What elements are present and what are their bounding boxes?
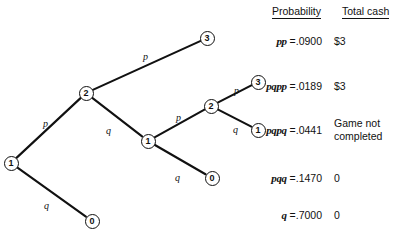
tree-node-1: 1	[4, 156, 19, 171]
total-cash-cell: 0	[334, 172, 340, 185]
tree-node-3: 3	[200, 31, 215, 46]
probability-symbol: pqpq	[266, 124, 286, 136]
tree-edge	[92, 98, 142, 137]
probability-value: =.0189	[287, 80, 322, 92]
tree-edge	[93, 41, 200, 90]
edge-label-p: p	[234, 85, 239, 96]
tree-edge	[16, 98, 80, 158]
probability-cell: pp =.0900	[248, 35, 322, 47]
total-cash-cell: $3	[334, 35, 346, 48]
probability-cell: pqq =.1470	[248, 172, 322, 184]
column-header-total-cash: Total cash	[342, 5, 389, 19]
probability-value: =.1470	[287, 172, 322, 184]
tree-node-2: 2	[79, 86, 94, 101]
edge-label-q: q	[44, 200, 49, 211]
tree-node-0: 0	[205, 171, 220, 186]
probability-symbol: pp	[276, 35, 286, 47]
total-cash-cell: 0	[334, 209, 340, 222]
edge-label-p: p	[143, 51, 148, 62]
tree-edge	[154, 145, 205, 174]
edge-label-p: p	[176, 112, 181, 123]
tree-node-0: 0	[85, 214, 100, 229]
total-cash-cell: Game not completed	[334, 117, 382, 142]
probability-symbol: pqq	[271, 172, 286, 184]
probability-cell: pqpp =.0189	[248, 80, 322, 92]
column-header-probability: Probability	[272, 5, 321, 19]
edge-label-q: q	[106, 125, 111, 136]
probability-cell: q =.7000	[248, 209, 322, 221]
outcome-table: Probability Total cash pp =.0900$3pqpp =…	[248, 0, 399, 238]
probability-value: =.7000	[287, 209, 322, 221]
total-cash-cell: $3	[334, 80, 346, 93]
edge-label-q: q	[233, 124, 238, 135]
tree-node-1: 1	[141, 134, 156, 149]
probability-cell: pqpq =.0441	[248, 124, 322, 136]
probability-symbol: pqpp	[266, 80, 286, 92]
edge-label-q: q	[175, 172, 180, 183]
edge-label-p: p	[43, 118, 48, 129]
tree-node-2: 2	[204, 99, 219, 114]
tree-edge	[17, 167, 86, 216]
probability-value: =.0900	[287, 35, 322, 47]
probability-value: =.0441	[287, 124, 322, 136]
figure-canvas: 123123100 pqpqpqpq Probability Total cas…	[0, 0, 399, 238]
